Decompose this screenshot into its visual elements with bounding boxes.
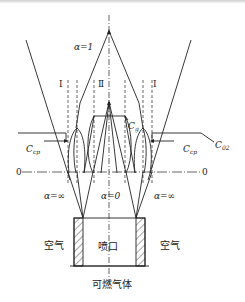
label-ccp-right: Ccp: [183, 144, 197, 156]
label-alpha-one: α=1: [74, 42, 93, 52]
label-nozzle: 喷口: [98, 241, 118, 252]
label-alpha-inf-left: α=∞: [44, 191, 65, 201]
label-zero-right: 0: [202, 167, 208, 177]
right-nozzle-wall: [136, 218, 145, 266]
outer-left-line: [26, 40, 70, 180]
inner-cone-left: [93, 102, 109, 173]
flame-diagram: α=1 Ⅰ Ⅱ Ⅰ Cg Ccp Ccp C02 0 0 α=∞ α=0 α=∞…: [0, 0, 245, 302]
label-zone-I-left: Ⅰ: [59, 79, 63, 89]
label-zero-left: 0: [16, 167, 22, 177]
label-alpha-inf-right: α=∞: [154, 191, 175, 201]
label-air-right: 空气: [160, 239, 180, 251]
apex-arrow-inner: [107, 100, 111, 105]
apex-arrow-top: [107, 29, 111, 34]
label-zone-I-right: Ⅰ: [153, 79, 157, 89]
alpha1-cone-right: [109, 31, 143, 128]
label-ccp-left: Ccp: [26, 144, 40, 156]
label-alpha-zero: α=0: [101, 191, 121, 201]
label-zone-II: Ⅱ: [98, 79, 104, 89]
label-c02: C02: [215, 140, 230, 151]
label-fuel-gas: 可燃气体: [92, 278, 132, 290]
label-air-left: 空气: [44, 239, 64, 251]
left-lens: [68, 128, 85, 173]
inner-cone-right: [109, 102, 126, 173]
outer-right-line: [148, 40, 191, 180]
left-nozzle-wall: [74, 218, 83, 266]
c02-leader: [201, 133, 214, 142]
